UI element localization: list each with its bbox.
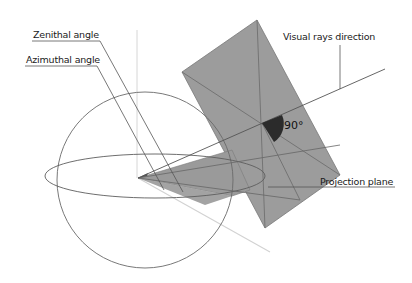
zenithal-angle-label: Zenithal angle [33, 30, 99, 40]
azimuthal-angle-label: Azimuthal angle [26, 55, 100, 65]
azimuthal-leader [25, 66, 164, 190]
viewing-geometry-diagram [0, 0, 412, 283]
projection-plane-label: Projection plane [320, 177, 393, 187]
visual-rays-direction-label: Visual rays direction [283, 32, 375, 42]
right-angle-label: 90° [284, 120, 304, 131]
